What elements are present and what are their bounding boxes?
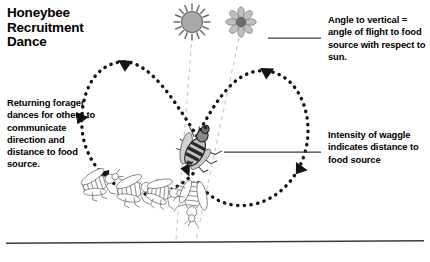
dance-path-right-loop [196, 71, 308, 206]
caption-angle-to-vertical: Angle to vertical = angle of flight to f… [328, 14, 428, 63]
caption-intensity-of-waggle: Intensity of waggle indicates distance t… [328, 129, 428, 166]
dance-arrow-top-left [118, 59, 133, 71]
page-title: Honeybee Recruitment Dance [7, 6, 137, 50]
honeybee-recruitment-dance-figure: Honeybee Recruitment Dance Returning for… [0, 0, 430, 262]
flower-icon [226, 7, 256, 37]
caption-returning-forager: Returning forager dances for others to c… [7, 97, 99, 171]
sun-icon [174, 4, 210, 40]
leader-lines-group [224, 38, 321, 152]
bottom-rule [6, 241, 424, 243]
